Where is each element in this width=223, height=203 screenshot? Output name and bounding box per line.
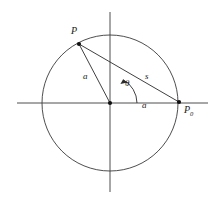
label-point-p0: P0 (184, 105, 193, 118)
label-chord-s: s (145, 72, 149, 81)
point-marker-origin (108, 101, 112, 105)
label-radius-right: a (142, 101, 147, 110)
label-angle-theta: θ (125, 79, 129, 88)
label-point-p: P (71, 26, 77, 36)
label-point-p0-subscript: 0 (190, 110, 193, 117)
figure-canvas: P P0 a a s θ (0, 0, 223, 203)
geometry-svg (0, 0, 223, 203)
label-radius-left: a (83, 72, 88, 81)
point-marker-p (77, 42, 81, 46)
point-marker-p0 (177, 100, 181, 104)
